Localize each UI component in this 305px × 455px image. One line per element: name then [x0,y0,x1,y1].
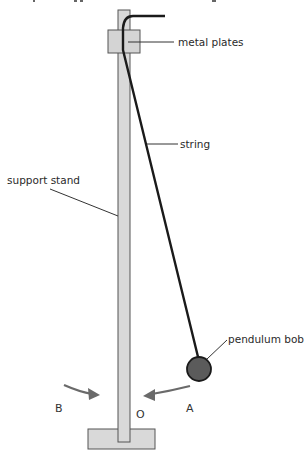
pendulum-bob-leader [207,340,227,359]
string [123,16,199,361]
point-o-label: O [136,408,145,421]
cropped-text-fragments [33,0,216,2]
point-b-label: B [55,402,63,415]
arrow-b-icon [64,385,100,400]
metal-plates-label: metal plates [178,36,244,48]
pendulum-bob [187,357,211,381]
support-stand-leader [50,189,118,216]
string-label: string [180,138,210,150]
arrow-a-icon [143,386,190,401]
support-stand-label: support stand [7,174,80,186]
pendulum-diagram: metal plates string support stand pendul… [0,0,305,455]
point-a-label: A [186,402,194,415]
pendulum-bob-label: pendulum bob [228,333,304,345]
